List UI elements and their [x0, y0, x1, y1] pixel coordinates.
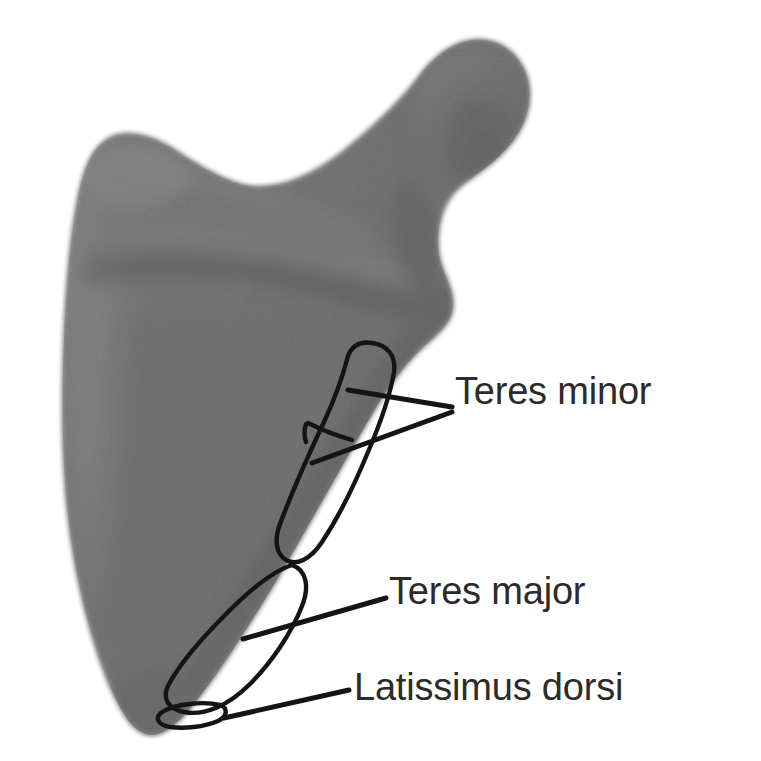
leader-teres-major [243, 598, 386, 639]
label-teres-major: Teres major [389, 572, 585, 610]
anatomy-figure: Teres minor Teres major Latissimus dorsi [0, 0, 761, 761]
label-teres-minor: Teres minor [455, 372, 651, 410]
label-latissimus-dorsi: Latissimus dorsi [354, 668, 623, 706]
leader-latissimus-dorsi [224, 690, 349, 718]
teres-minor-divider-tick [305, 424, 307, 442]
